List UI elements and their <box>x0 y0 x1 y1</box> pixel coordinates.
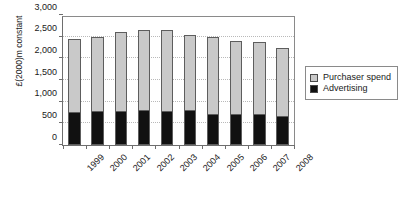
x-axis-labels: 1999200020012002200320042005200620072008 <box>62 150 295 190</box>
legend-item-purchaser-spend: Purchaser spend <box>310 73 391 82</box>
bar-segment-purchaser-spend <box>162 31 172 111</box>
bar-group <box>155 17 178 145</box>
stacked-bar <box>68 39 80 145</box>
y-axis-tick <box>59 36 63 37</box>
bar-group <box>63 17 86 145</box>
stacked-bar <box>138 30 150 145</box>
y-axis-tick-label: 2,000 <box>34 45 57 54</box>
x-axis-tick-label: 2005 <box>224 152 245 173</box>
bar-segment-purchaser-spend <box>139 31 149 111</box>
y-axis-title: £(2000)m constant <box>14 0 24 111</box>
bar-segment-purchaser-spend <box>208 38 218 113</box>
y-axis-tick-label: 2,500 <box>34 24 57 33</box>
bar-segment-advertising <box>92 111 102 144</box>
y-axis-tick <box>59 57 63 58</box>
bar-segment-purchaser-spend <box>185 36 195 110</box>
x-axis-tick-label: 2002 <box>155 152 176 173</box>
bar-segment-advertising <box>162 111 172 144</box>
stacked-bar <box>253 42 265 145</box>
x-axis-tick-label: 2000 <box>108 152 129 173</box>
x-axis-tick-label: 2004 <box>201 152 222 173</box>
y-axis-tick <box>59 101 63 102</box>
y-axis-tick-label: 0 <box>52 132 57 141</box>
bar-segment-advertising <box>69 112 79 144</box>
x-axis-tick <box>271 145 272 149</box>
x-axis-tick <box>225 145 226 149</box>
bar-group <box>248 17 271 145</box>
x-axis-tick-label: 2001 <box>131 152 152 173</box>
bar-segment-advertising <box>277 116 287 144</box>
legend-swatch-icon <box>310 74 318 82</box>
bar-group <box>132 17 155 145</box>
bar-group <box>109 17 132 145</box>
x-axis-tick <box>86 145 87 149</box>
chart-legend: Purchaser spend Advertising <box>305 66 398 100</box>
bar-segment-purchaser-spend <box>231 42 241 114</box>
bar-group <box>178 17 201 145</box>
bar-segment-advertising <box>208 114 218 144</box>
x-axis-tick-label: 2008 <box>294 152 315 173</box>
y-axis-tick-label: 3,000 <box>34 2 57 11</box>
stacked-bar <box>276 48 288 145</box>
y-axis-tick <box>59 79 63 80</box>
y-axis-tick <box>59 122 63 123</box>
stacked-bar <box>115 32 127 145</box>
stacked-bar-chart: £(2000)m constant 05001,0001,5002,0002,5… <box>0 0 416 202</box>
bar-group <box>202 17 225 145</box>
plot-area: 05001,0001,5002,0002,5003,000 <box>62 16 295 146</box>
bar-segment-purchaser-spend <box>92 38 102 111</box>
x-axis-tick <box>155 145 156 149</box>
legend-label: Advertising <box>323 84 368 93</box>
x-axis-tick <box>63 145 64 149</box>
bar-segment-purchaser-spend <box>116 33 126 111</box>
stacked-bar <box>184 35 196 146</box>
bar-segment-advertising <box>185 110 195 144</box>
x-axis-tick <box>109 145 110 149</box>
x-axis-tick <box>179 145 180 149</box>
x-axis-tick <box>132 145 133 149</box>
bar-group <box>86 17 109 145</box>
bar-segment-advertising <box>254 114 264 144</box>
legend-label: Purchaser spend <box>323 73 391 82</box>
stacked-bar <box>230 41 242 145</box>
x-axis-tick <box>202 145 203 149</box>
bar-segment-advertising <box>116 111 126 144</box>
x-axis-tick <box>248 145 249 149</box>
y-axis-tick-label: 500 <box>42 110 57 119</box>
bar-segment-advertising <box>139 110 149 144</box>
legend-item-advertising: Advertising <box>310 84 391 93</box>
bar-group <box>271 17 294 145</box>
x-axis-tick-label: 2003 <box>178 152 199 173</box>
bar-segment-purchaser-spend <box>69 40 79 112</box>
bar-group <box>225 17 248 145</box>
stacked-bar <box>207 37 219 145</box>
legend-swatch-icon <box>310 85 318 93</box>
stacked-bar <box>91 37 103 145</box>
x-axis-tick-label: 2006 <box>248 152 269 173</box>
x-axis-tick-label: 1999 <box>85 152 106 173</box>
y-axis-tick-label: 1,000 <box>34 89 57 98</box>
stacked-bar <box>161 30 173 145</box>
bar-segment-purchaser-spend <box>277 49 287 116</box>
x-axis-tick <box>294 145 295 149</box>
y-axis-tick <box>59 14 63 15</box>
bar-segment-purchaser-spend <box>254 43 264 114</box>
bar-segment-advertising <box>231 114 241 144</box>
y-axis-tick-label: 1,500 <box>34 67 57 76</box>
x-axis-tick-label: 2007 <box>271 152 292 173</box>
bar-series-group <box>63 17 294 145</box>
